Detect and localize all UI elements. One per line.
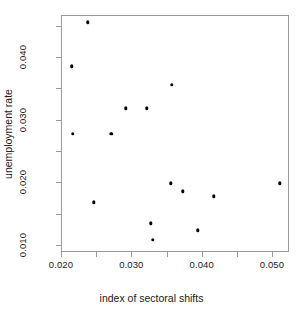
data-point	[278, 182, 281, 185]
data-point	[169, 182, 172, 185]
plot-panel	[61, 15, 289, 252]
y-axis-tick	[56, 245, 61, 246]
data-point	[170, 83, 173, 86]
x-axis-tick	[237, 252, 238, 257]
x-axis-tick	[272, 252, 273, 257]
x-axis-tick	[131, 252, 132, 257]
x-axis-tick	[167, 252, 168, 257]
x-axis-tick	[61, 252, 62, 257]
data-point	[151, 238, 154, 241]
x-axis-tick-label: 0.040	[190, 259, 214, 270]
data-point	[70, 64, 73, 67]
x-axis-tick	[202, 252, 203, 257]
y-axis-tick-label: 0.030	[17, 108, 28, 132]
y-axis-tick-label: 0.010	[17, 233, 28, 257]
y-axis-tick	[56, 26, 61, 27]
x-axis-tick-label: 0.030	[119, 259, 143, 270]
y-axis-tick	[56, 88, 61, 89]
data-point	[145, 106, 148, 109]
y-axis-tick-label: 0.020	[17, 170, 28, 194]
x-axis-tick-label: 0.050	[260, 259, 284, 270]
data-point	[196, 229, 199, 232]
x-axis-tick-label: 0.020	[49, 259, 73, 270]
x-axis-tick	[96, 252, 97, 257]
y-axis-tick	[56, 120, 61, 121]
data-point	[124, 106, 127, 109]
y-axis-tick	[56, 57, 61, 58]
y-axis-tick-label: 0.040	[17, 45, 28, 69]
y-axis-tick	[56, 214, 61, 215]
y-axis-tick	[56, 182, 61, 183]
data-point	[212, 195, 215, 198]
data-point	[110, 132, 113, 135]
data-point	[181, 190, 184, 193]
y-axis-title: unemployment rate	[2, 89, 14, 179]
data-point	[86, 21, 89, 24]
data-point	[149, 222, 152, 225]
scatter-plot-figure: 0.0200.0300.0400.050 0.0100.0200.0300.04…	[0, 0, 303, 314]
y-axis-tick	[56, 151, 61, 152]
data-point	[71, 132, 74, 135]
data-point	[92, 200, 95, 203]
x-axis-title: index of sectoral shifts	[0, 292, 303, 304]
